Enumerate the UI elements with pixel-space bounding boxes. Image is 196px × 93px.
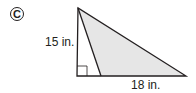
height-label: 15 in. — [45, 35, 74, 49]
triangle-diagram: C 15 in. 18 in. — [0, 0, 196, 93]
problem-letter: C — [13, 8, 21, 20]
base-label: 18 in. — [131, 78, 160, 92]
right-angle-marker — [77, 66, 87, 76]
problem-letter-badge: C — [11, 8, 24, 21]
